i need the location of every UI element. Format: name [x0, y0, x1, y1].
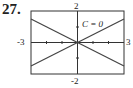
x-max-label: 3	[126, 37, 131, 47]
y-min-label: -2	[71, 76, 79, 86]
c-annotation: C = 0	[82, 19, 103, 29]
y-max-label: 2	[74, 1, 79, 11]
x-min-label: -3	[17, 37, 25, 47]
